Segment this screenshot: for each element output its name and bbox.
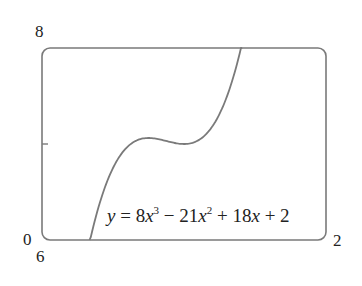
equation-label: y = 8x3 − 21x2 + 18x + 2: [105, 204, 290, 226]
eq-y: y: [105, 205, 116, 226]
eq-part: + 18: [212, 205, 251, 226]
x-min-label: 0: [23, 230, 32, 249]
y-max-label: 8: [35, 22, 44, 41]
eq-part: + 2: [260, 205, 290, 226]
eq-part: = 8: [115, 205, 145, 226]
x-max-label: 2: [333, 231, 342, 250]
cubic-function-graph: 8 0 6 2 y = 8x3 − 21x2 + 18x + 2: [0, 0, 362, 286]
eq-part: − 21: [159, 205, 198, 226]
y-min-label: 6: [36, 247, 45, 266]
